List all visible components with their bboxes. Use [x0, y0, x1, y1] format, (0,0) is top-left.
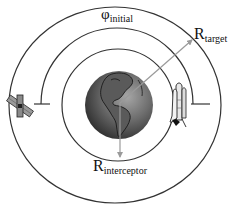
- satellite-icon: [7, 95, 34, 117]
- r-target-label: Rtarget: [194, 26, 227, 42]
- r-interceptor-subscript: interceptor: [104, 165, 147, 176]
- phi-subscript: initial: [110, 13, 133, 24]
- r-target-subscript: target: [205, 33, 228, 44]
- r-target-symbol: R: [194, 25, 205, 42]
- r-interceptor-label: Rinterceptor: [93, 158, 147, 174]
- r-interceptor-symbol: R: [93, 157, 104, 174]
- phi-symbol: φ: [101, 6, 110, 22]
- phi-initial-label: φinitial: [101, 6, 133, 22]
- earth-icon: [85, 71, 153, 139]
